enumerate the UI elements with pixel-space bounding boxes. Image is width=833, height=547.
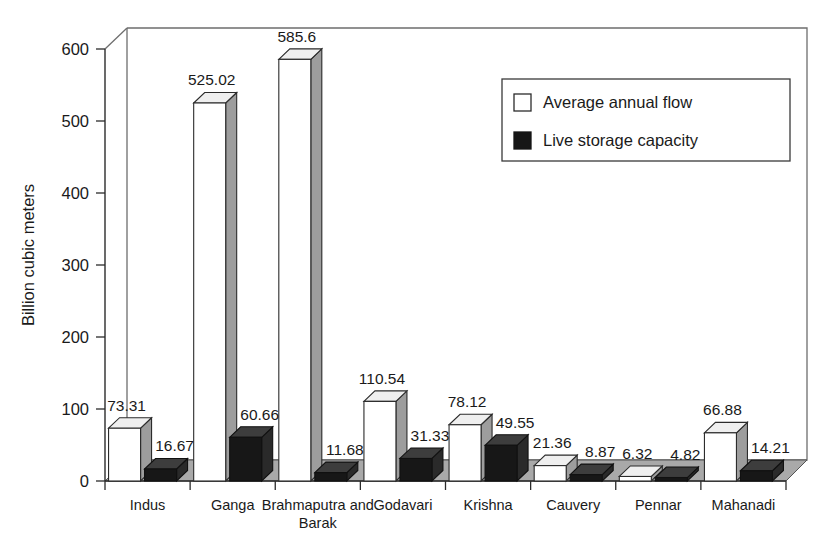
y-tick-label: 600 — [61, 40, 89, 58]
x-category-label: Cauvery — [546, 497, 601, 513]
y-tick-label: 0 — [80, 472, 89, 490]
bar-value-label: 66.88 — [703, 401, 742, 418]
bar-average-annual-flow — [279, 49, 322, 481]
legend-label-live-storage-capacity: Live storage capacity — [543, 131, 699, 149]
legend: Average annual flow Live storage capacit… — [502, 79, 790, 161]
bar-value-label: 8.87 — [585, 443, 615, 460]
bar-live-storage-capacity — [485, 435, 528, 481]
bar-value-label: 78.12 — [448, 393, 487, 410]
top-left-depth-edge — [105, 28, 127, 49]
bar-value-label: 16.67 — [155, 437, 194, 454]
y-tick-label: 300 — [61, 256, 89, 274]
x-category-label: Indus — [130, 497, 165, 513]
bar-value-label: 585.6 — [277, 28, 316, 45]
bar-value-label: 11.68 — [326, 441, 364, 458]
bar-value-label: 14.21 — [751, 439, 790, 456]
chart-container: 0100200300400500600 73.3116.67525.0260.6… — [0, 0, 833, 547]
y-tick-label: 500 — [61, 112, 89, 130]
bar-live-storage-capacity — [230, 427, 273, 481]
bar-average-annual-flow — [194, 92, 237, 481]
bar-value-label: 31.33 — [411, 427, 450, 444]
filled-square-icon — [514, 132, 531, 149]
x-category-label: Godavari — [374, 497, 433, 513]
x-category-label: Mahanadi — [712, 497, 776, 513]
category-labels-layer: IndusGangaBrahmaputra andBarakGodavariKr… — [130, 497, 775, 531]
y-tick-label: 400 — [61, 184, 89, 202]
x-axis — [105, 481, 786, 490]
x-category-label: Pennar — [635, 497, 682, 513]
x-tick-group — [105, 481, 786, 490]
bar-live-storage-capacity — [400, 448, 443, 481]
x-category-label: Barak — [299, 515, 338, 531]
bar-value-label: 21.36 — [533, 434, 572, 451]
y-tick-label: 100 — [61, 400, 89, 418]
y-axis-title: Billion cubic meters — [19, 184, 37, 326]
hollow-square-icon — [514, 94, 531, 111]
bar-value-label: 110.54 — [359, 370, 406, 387]
bar-value-label: 4.82 — [670, 446, 700, 463]
y-tick-label: 200 — [61, 328, 89, 346]
y-tick-group: 0100200300400500600 — [61, 40, 105, 490]
bar-value-label: 49.55 — [496, 414, 535, 431]
bar-value-label: 525.02 — [188, 71, 235, 88]
bar-value-label: 73.31 — [107, 397, 146, 414]
legend-label-average-annual-flow: Average annual flow — [543, 93, 692, 111]
bar-chart-svg: 0100200300400500600 73.3116.67525.0260.6… — [0, 0, 833, 547]
y-axis: 0100200300400500600 — [61, 40, 105, 490]
x-category-label: Ganga — [211, 497, 255, 513]
x-category-label: Brahmaputra and — [262, 497, 374, 513]
bar-value-label: 60.66 — [240, 406, 279, 423]
bar-value-label: 6.32 — [622, 445, 652, 462]
x-category-label: Krishna — [463, 497, 513, 513]
